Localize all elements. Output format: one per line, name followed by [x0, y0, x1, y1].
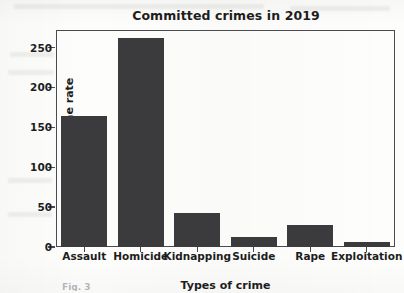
y-tick-label: 0 [45, 241, 52, 253]
bar [118, 38, 164, 247]
y-tick-label: 200 [30, 81, 52, 93]
bar [287, 225, 333, 247]
caption-fragment: Fig. 3 [62, 282, 91, 291]
figure-page: Committed crimes in 2019 Crime rate 0501… [0, 0, 404, 293]
y-tick-label: 50 [37, 201, 52, 213]
x-tick-label: Kidnapping [164, 250, 231, 262]
x-tick-label: Exploitation [331, 250, 402, 262]
chart-title: Committed crimes in 2019 [56, 8, 396, 23]
bar-chart: Committed crimes in 2019 Crime rate 0501… [0, 0, 404, 293]
x-tick-label: Assault [62, 250, 106, 262]
bar [61, 116, 107, 247]
y-tick-label: 150 [30, 121, 52, 133]
x-tick-label: Suicide [232, 250, 275, 262]
x-tick-label: Rape [295, 250, 325, 262]
plot-area: Crime rate 050100150200250 AssaultHomici… [56, 30, 395, 247]
x-axis-label: Types of crime [56, 279, 395, 292]
x-tick-label: Homicide [113, 250, 168, 262]
bar [231, 237, 277, 247]
y-tick-label: 250 [30, 42, 52, 54]
y-tick-label: 100 [30, 161, 52, 173]
bar [174, 213, 220, 247]
